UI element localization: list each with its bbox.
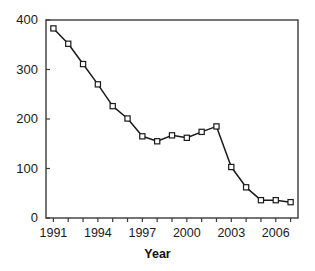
data-point-marker xyxy=(273,198,278,203)
data-point-marker xyxy=(184,135,189,140)
x-tick-label: 1994 xyxy=(78,226,118,240)
data-point-marker xyxy=(110,104,115,109)
y-tick-label: 400 xyxy=(4,12,38,27)
data-point-marker xyxy=(169,133,174,138)
data-point-marker xyxy=(258,198,263,203)
x-tick-label: 1997 xyxy=(122,226,162,240)
data-point-marker xyxy=(95,82,100,87)
plot-frame xyxy=(46,20,298,218)
y-tick-label: 100 xyxy=(4,161,38,176)
data-point-marker xyxy=(229,164,234,169)
y-tick-label: 200 xyxy=(4,111,38,126)
x-tick-label: 2003 xyxy=(211,226,251,240)
data-point-marker xyxy=(125,116,130,121)
data-point-marker xyxy=(199,129,204,134)
data-point-marker xyxy=(140,134,145,139)
data-point-marker xyxy=(155,139,160,144)
plot-border xyxy=(46,20,298,218)
data-point-marker xyxy=(80,61,85,66)
x-tick-label: 2006 xyxy=(256,226,296,240)
x-tick-label: 1991 xyxy=(33,226,73,240)
chart-container: 0100200300400 199119941997200020032006 Y… xyxy=(0,0,315,271)
data-point-marker xyxy=(51,26,56,31)
y-tick-label: 0 xyxy=(4,210,38,225)
x-axis-title: Year xyxy=(0,247,315,261)
y-tick-label: 300 xyxy=(4,62,38,77)
data-point-marker xyxy=(214,124,219,129)
data-point-marker xyxy=(66,41,71,46)
x-tick-label: 2000 xyxy=(167,226,207,240)
data-point-marker xyxy=(244,185,249,190)
data-point-marker xyxy=(288,200,293,205)
